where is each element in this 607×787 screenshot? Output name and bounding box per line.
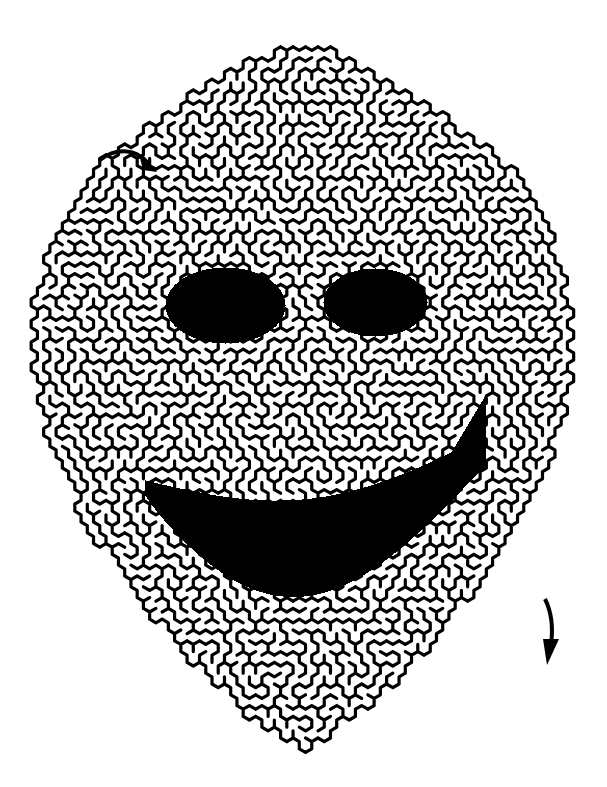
entry-arrow-icon [95, 140, 165, 180]
maze-canvas[interactable] [0, 0, 607, 787]
exit-arrow-icon [535, 595, 565, 670]
